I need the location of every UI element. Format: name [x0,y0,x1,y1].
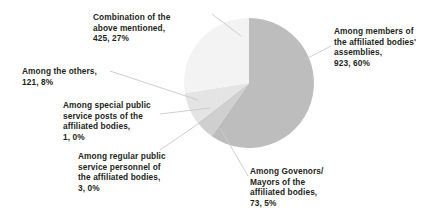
leader-line-members [304,46,331,60]
pie-label-combination: Combination of the above mentioned, 425,… [93,12,211,44]
pie-label-members: Among members of the affiliated bodies' … [334,26,440,68]
pie-chart-figure: Combination of the above mentioned, 425,… [0,0,441,219]
pie-label-others: Among the others, 121, 8% [22,66,132,87]
pie-label-governors: Among Govenors/ Mayors of the affiliated… [250,166,362,208]
pie-label-regular: Among regular public service personnel o… [78,151,200,193]
pie-label-special: Among special public service posts of th… [63,100,185,142]
